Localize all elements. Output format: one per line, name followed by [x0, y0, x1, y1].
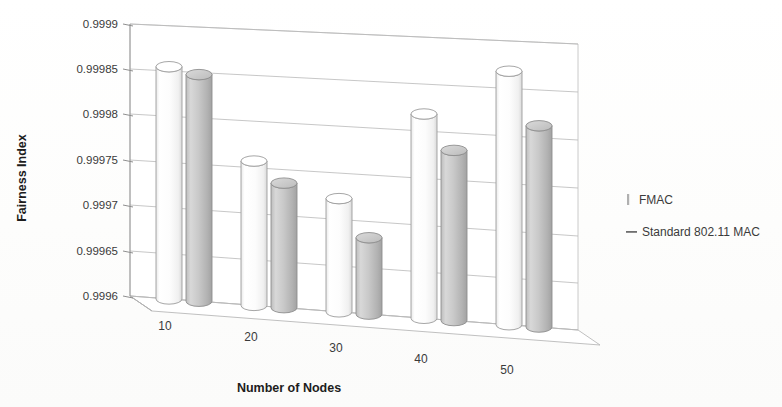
y-tick-label-0.99965: 0.99965 — [76, 245, 118, 257]
bar-fmac-10[interactable] — [156, 62, 182, 305]
bar-standard-802-11-mac-50-top — [526, 121, 552, 131]
bar-fmac-40-top — [411, 109, 437, 119]
bar-standard-802-11-mac-10[interactable] — [186, 69, 212, 306]
y-tick-labels: 0.9999 0.99985 0.9998 0.99975 0.9997 0.9… — [76, 18, 118, 302]
fairness-index-chart: 0.9999 0.99985 0.9998 0.99975 0.9997 0.9… — [0, 0, 782, 407]
x-tick-label-20: 20 — [244, 330, 258, 344]
bar-fmac-20-top — [241, 156, 267, 166]
y-tick-label-0.9998: 0.9998 — [83, 108, 118, 120]
x-tick-label-50: 50 — [500, 363, 514, 377]
bar-standard-802-11-mac-30[interactable] — [356, 233, 382, 320]
bar-fmac-50-body — [496, 71, 522, 330]
bar-fmac-30[interactable] — [326, 193, 352, 317]
bar-fmac-20-body — [241, 161, 267, 311]
bar-fmac-10-top — [156, 62, 182, 72]
y-axis-title: Fairness Index — [15, 134, 29, 222]
x-tick-label-30: 30 — [329, 341, 343, 355]
bar-standard-802-11-mac-10-top — [186, 69, 212, 79]
x-tick-label-40: 40 — [414, 352, 428, 366]
legend-label-fmac: FMAC — [639, 193, 673, 207]
y-tick-label-0.9997: 0.9997 — [83, 199, 118, 211]
legend-marker-vertical-bar-icon — [627, 194, 629, 205]
chart-canvas: 0.9999 0.99985 0.9998 0.99975 0.9997 0.9… — [0, 0, 782, 407]
y-tick-label-0.99985: 0.99985 — [76, 63, 118, 75]
bar-fmac-50[interactable] — [496, 66, 522, 330]
bar-fmac-40-body — [411, 114, 437, 324]
bar-standard-802-11-mac-20-body — [271, 183, 297, 313]
x-axis-title: Number of Nodes — [237, 381, 341, 395]
bar-standard-802-11-mac-50-body — [526, 126, 552, 332]
legend-marker-horizontal-dash-icon — [626, 231, 637, 233]
legend-label-standard-802-11-mac: Standard 802.11 MAC — [642, 225, 760, 239]
bar-standard-802-11-mac-40-body — [441, 150, 467, 325]
bar-standard-802-11-mac-50[interactable] — [526, 121, 552, 333]
bar-fmac-20[interactable] — [241, 156, 267, 311]
legend-item-fmac[interactable]: FMAC — [627, 193, 673, 207]
bar-standard-802-11-mac-40-top — [441, 145, 467, 155]
y-tick-label-0.9999: 0.9999 — [83, 18, 118, 30]
bar-fmac-50-top — [496, 66, 522, 76]
x-tick-label-10: 10 — [158, 319, 172, 333]
bar-fmac-40[interactable] — [411, 109, 437, 324]
bar-fmac-30-top — [326, 193, 352, 203]
bar-standard-802-11-mac-30-top — [356, 233, 382, 243]
legend-item-standard-802-11-mac[interactable]: Standard 802.11 MAC — [626, 225, 760, 239]
y-tick-label-0.99975: 0.99975 — [76, 154, 118, 166]
bar-fmac-30-body — [326, 199, 352, 317]
y-tick-label-0.9996: 0.9996 — [83, 290, 118, 302]
bar-fmac-10-body — [156, 67, 182, 304]
bar-standard-802-11-mac-40[interactable] — [441, 145, 467, 326]
bar-standard-802-11-mac-20-top — [271, 178, 297, 188]
chart-legend: FMAC Standard 802.11 MAC — [626, 193, 760, 239]
bar-standard-802-11-mac-30-body — [356, 238, 382, 320]
bar-standard-802-11-mac-20[interactable] — [271, 178, 297, 313]
bar-standard-802-11-mac-10-body — [186, 75, 212, 307]
